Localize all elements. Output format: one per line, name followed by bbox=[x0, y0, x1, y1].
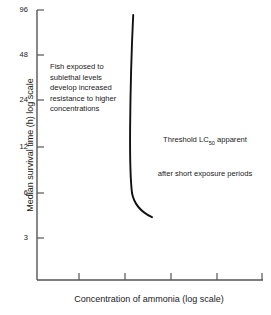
annotation-threshold-line2: after short exposure periods bbox=[158, 169, 253, 178]
y-axis-ticks bbox=[37, 10, 44, 238]
survival-time-curve bbox=[130, 15, 152, 217]
annotation-resistance: Fish exposed to sublethal levels develop… bbox=[50, 62, 136, 115]
toxicity-curve-figure: 96 48 24 12 6 3 Median survival time (h)… bbox=[0, 0, 271, 315]
annotation-threshold-text-after: apparent bbox=[215, 135, 247, 144]
annotation-threshold-line1: Threshold LC50 apparent bbox=[163, 135, 247, 144]
x-axis-ticks bbox=[79, 273, 262, 280]
y-tick-label-96: 96 bbox=[6, 6, 28, 14]
annotation-threshold: Threshold LC50 apparent after short expo… bbox=[143, 124, 267, 179]
x-axis-title: Concentration of ammonia (log scale) bbox=[30, 294, 268, 304]
annotation-threshold-text-before: Threshold LC bbox=[163, 135, 209, 144]
y-axis-title: Median survival time (h) log scale bbox=[25, 45, 35, 245]
